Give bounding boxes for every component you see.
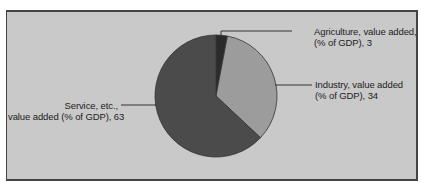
label-service-line1: Service, etc., [8, 100, 118, 111]
label-industry-line1: Industry, value added [315, 79, 403, 90]
leader-line-agriculture [221, 31, 292, 36]
label-industry-line2: (% of GDP), 34 [315, 90, 403, 101]
label-service-line2: value added (% of GDP), 63 [8, 111, 118, 122]
label-industry: Industry, value added (% of GDP), 34 [315, 79, 403, 101]
label-agriculture-line2: (% of GDP), 3 [314, 37, 417, 48]
label-agriculture: Agriculture, value added, (% of GDP), 3 [314, 26, 417, 48]
label-service: Service, etc., value added (% of GDP), 6… [8, 100, 118, 122]
label-agriculture-line1: Agriculture, value added, [314, 26, 417, 37]
pie-slices [155, 35, 277, 157]
